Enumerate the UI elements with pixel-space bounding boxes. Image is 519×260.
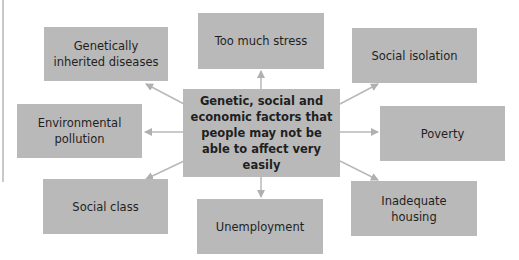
node-too-much-stress: Too much stress — [198, 13, 324, 69]
center-label: Genetic, social and economic factors tha… — [189, 93, 334, 173]
node-environmental-pollution: Environmental pollution — [17, 104, 142, 158]
node-label: Social class — [72, 199, 138, 215]
node-label: Social isolation — [371, 48, 457, 64]
node-social-isolation: Social isolation — [352, 28, 477, 83]
arrow-to-isolation — [340, 84, 378, 104]
node-poverty: Poverty — [380, 106, 505, 161]
arrow-to-genetic — [146, 84, 184, 104]
node-inadequate-housing: Inadequate housing — [351, 181, 477, 236]
arrow-to-social-class — [146, 161, 184, 179]
node-genetically-inherited-diseases: Genetically inherited diseases — [44, 27, 168, 81]
node-label: Inadequate housing — [374, 193, 454, 225]
node-unemployment: Unemployment — [197, 199, 323, 254]
center-node: Genetic, social and economic factors tha… — [183, 89, 340, 177]
node-label: Genetically inherited diseases — [50, 38, 162, 70]
node-social-class: Social class — [43, 179, 168, 234]
node-label: Unemployment — [216, 219, 304, 235]
node-label: Too much stress — [215, 33, 308, 49]
arrow-to-housing — [340, 161, 378, 180]
node-label: Poverty — [421, 126, 464, 142]
node-label: Environmental pollution — [32, 115, 128, 147]
